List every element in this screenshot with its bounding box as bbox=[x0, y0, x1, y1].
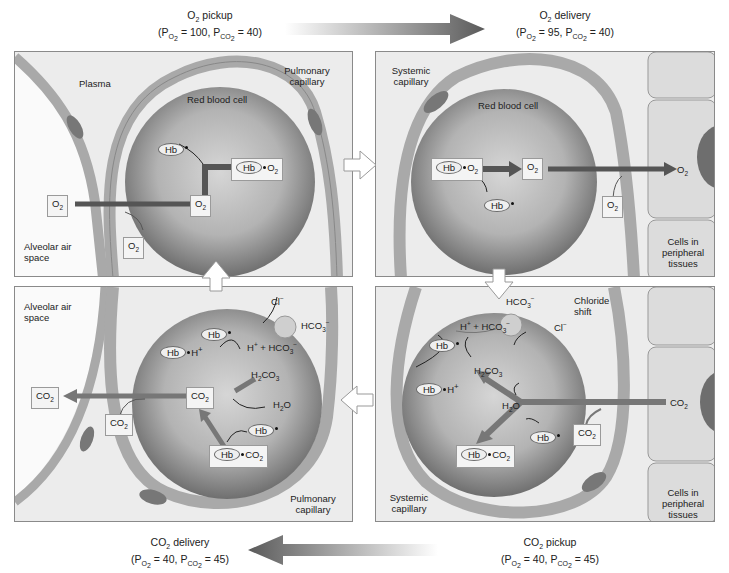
pulmonary-capillary-label: Pulmonary capillary bbox=[277, 65, 337, 87]
carbonic-acid-label: H2CO3 bbox=[474, 365, 502, 380]
cells-in-peripheral-tissues-label: Cells in peripheral tissues bbox=[651, 236, 715, 269]
chloride-shift-label: Chloride shift bbox=[574, 295, 618, 317]
systemic-capillary-label: Systemic capillary bbox=[386, 65, 436, 87]
o2-pickup-caption: O2 pickup (PO2 = 100, PCO2 = 40) bbox=[130, 9, 290, 46]
o2-rbc-box: O2 bbox=[190, 195, 211, 217]
hb-molecule: Hb bbox=[201, 324, 232, 342]
carbonic-acid-label: H2CO3 bbox=[251, 369, 279, 384]
hb-molecule: Hb bbox=[530, 427, 561, 445]
co2-plasma-box: CO2 bbox=[105, 414, 133, 436]
panel-co2-pickup-tissues: HCO3− Chloride shift Cl− H+ + HCO3− Hb H… bbox=[375, 286, 715, 522]
red-blood-cell-label: Red blood cell bbox=[187, 94, 247, 105]
systemic-capillary-label: Systemic capillary bbox=[384, 492, 434, 514]
h-plus-bicarbonate-label: H+ + HCO3− bbox=[247, 339, 297, 357]
pulmonary-capillary-label: Pulmonary capillary bbox=[283, 493, 343, 515]
water-label: H2O bbox=[502, 400, 520, 415]
chloride-ion-label: Cl− bbox=[554, 319, 567, 333]
co2-plasma-box: CO2 bbox=[573, 424, 601, 446]
o2-tissue-label: O2 bbox=[677, 164, 688, 179]
transition-arrow-down bbox=[484, 268, 514, 300]
o2-alveolar-box: O2 bbox=[47, 195, 68, 217]
bicarbonate-plasma-label: HCO3− bbox=[301, 317, 330, 335]
hb-h-complex: HbH+ bbox=[416, 382, 459, 396]
hb-h-complex: HbH+ bbox=[160, 345, 203, 359]
hb-molecule: Hb bbox=[484, 195, 515, 213]
red-blood-cell-label: Red blood cell bbox=[478, 100, 538, 111]
co2-pickup-caption: CO2 pickup (PO2 = 40, PCO2 = 45) bbox=[480, 536, 620, 573]
alveolar-air-space-label: Alveolar air space bbox=[24, 241, 74, 263]
hb-molecule: Hb bbox=[158, 139, 189, 157]
cells-in-peripheral-tissues-label: Cells in peripheral tissues bbox=[651, 487, 715, 520]
co2-rbc-box: CO2 bbox=[186, 387, 214, 409]
hb-co2-complex-box: HbCO2 bbox=[456, 445, 515, 468]
alveolar-air-space-label: Alveolar air space bbox=[24, 301, 74, 323]
direction-arrow-right bbox=[285, 14, 485, 44]
water-label: H2O bbox=[273, 399, 291, 414]
co2-alveolar-box: CO2 bbox=[31, 387, 59, 409]
transition-arrow-up bbox=[201, 260, 231, 292]
plasma-label: Plasma bbox=[79, 78, 111, 89]
o2-delivery-caption: O2 delivery (PO2 = 95, PCO2 = 40) bbox=[490, 9, 640, 46]
transition-arrow-right bbox=[342, 150, 378, 180]
o2-plasma-box: O2 bbox=[602, 196, 623, 218]
o2-rbc-box: O2 bbox=[522, 158, 543, 180]
co2-delivery-caption: CO2 delivery (PO2 = 40, PCO2 = 45) bbox=[110, 536, 250, 573]
chloride-ion-label: Cl− bbox=[271, 293, 284, 307]
hb-molecule: Hb bbox=[248, 420, 279, 438]
hb-molecule: Hb bbox=[429, 335, 460, 353]
o2-plasma-box: O2 bbox=[123, 237, 144, 259]
hb-o2-complex-box: HbO2 bbox=[231, 158, 283, 181]
hb-co2-complex-box: HbCO2 bbox=[209, 445, 268, 468]
transition-arrow-left bbox=[339, 385, 375, 415]
hb-o2-complex-box: HbO2 bbox=[431, 158, 483, 181]
panel-o2-pickup-lungs: Plasma Pulmonary capillary Red blood cel… bbox=[14, 51, 353, 277]
panel-co2-delivery-lungs: Alveolar air space Pulmonary capillary C… bbox=[14, 286, 353, 522]
direction-arrow-left bbox=[248, 535, 438, 565]
co2-tissue-label: CO2 bbox=[670, 397, 688, 412]
h-plus-bicarbonate-label: H+ + HCO3− bbox=[460, 318, 510, 336]
panel-o2-delivery-tissues: Systemic capillary Red blood cell Cells … bbox=[375, 51, 715, 277]
